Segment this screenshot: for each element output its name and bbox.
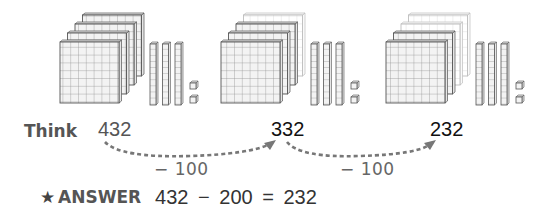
ten-rod bbox=[311, 44, 317, 105]
hundred-flat bbox=[60, 42, 119, 103]
one-unit bbox=[516, 83, 522, 89]
block-group-432 bbox=[60, 13, 198, 105]
ten-rod bbox=[489, 44, 495, 105]
ten-rod bbox=[476, 44, 482, 105]
one-unit bbox=[351, 97, 357, 103]
hundred-flat bbox=[386, 42, 445, 103]
ten-rod bbox=[324, 44, 330, 105]
step-1-label: − 100 bbox=[154, 159, 209, 179]
block-group-232 bbox=[386, 13, 524, 105]
one-unit bbox=[190, 97, 196, 103]
step-2-label: − 100 bbox=[340, 159, 395, 179]
start-number: 432 bbox=[98, 118, 131, 141]
hundred-flat bbox=[221, 42, 280, 103]
block-group-332 bbox=[221, 13, 359, 105]
think-label: Think bbox=[24, 121, 77, 141]
one-unit bbox=[516, 97, 522, 103]
one-unit bbox=[351, 83, 357, 89]
answer-expression: 432 − 200 = 232 bbox=[155, 186, 317, 209]
answer-row: ★ ANSWER 432 − 200 = 232 bbox=[40, 185, 317, 209]
base-ten-subtraction-diagram: Think 432 332 232 − 100 − 100 ★ ANSWER 4… bbox=[0, 0, 547, 212]
arrowhead-1 bbox=[264, 140, 276, 150]
ten-rod bbox=[150, 44, 156, 105]
arrow-step-2 bbox=[287, 142, 430, 156]
star-icon: ★ bbox=[40, 187, 55, 208]
base-ten-blocks bbox=[0, 0, 547, 212]
ten-rod bbox=[175, 44, 181, 105]
ten-rod bbox=[501, 44, 507, 105]
answer-label: ANSWER bbox=[58, 187, 141, 207]
ten-rod bbox=[163, 44, 169, 105]
end-number: 232 bbox=[430, 118, 463, 141]
ten-rod bbox=[336, 44, 342, 105]
arrow-step-1 bbox=[105, 142, 270, 156]
arrowhead-2 bbox=[424, 140, 436, 150]
one-unit bbox=[190, 83, 196, 89]
intermediate-number: 332 bbox=[271, 118, 304, 141]
arrows bbox=[105, 140, 436, 156]
